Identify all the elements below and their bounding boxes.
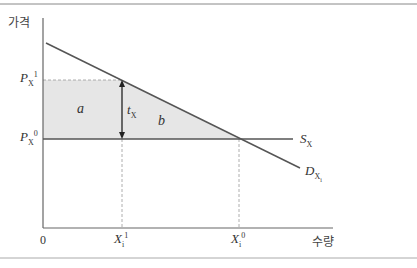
area-b-label: b: [158, 113, 165, 129]
p1-label: PX1: [20, 70, 38, 88]
demand-label: DXi: [305, 163, 322, 182]
supply-label: SX: [300, 131, 312, 149]
origin-label: 0: [40, 233, 46, 248]
x-axis-label: 수량: [312, 232, 334, 249]
area-a-label: a: [77, 101, 84, 117]
y-axis-label: 가격: [8, 13, 30, 30]
tariff-label: tX: [127, 102, 136, 120]
x0-label: Xi0: [231, 231, 245, 249]
p0-label: PX0: [20, 129, 38, 147]
x1-label: Xi1: [114, 231, 128, 249]
diagram-canvas: [0, 0, 417, 268]
